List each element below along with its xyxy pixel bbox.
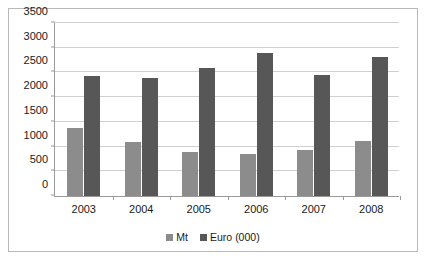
y-axis-tick-label: 1000 <box>24 129 48 141</box>
legend-swatch-icon <box>166 234 173 241</box>
bar <box>297 150 313 196</box>
bar <box>240 154 256 196</box>
gridline <box>55 121 399 122</box>
legend-item[interactable]: Euro (000) <box>200 231 260 243</box>
gridline <box>55 47 399 48</box>
gridline <box>55 96 399 97</box>
y-axis-tick-mark <box>51 46 55 47</box>
legend-item[interactable]: Mt <box>166 231 188 243</box>
plot-area: 0500100015002000250030003500 20032004200… <box>54 23 399 197</box>
y-axis-tick-mark <box>51 170 55 171</box>
y-axis-tick-mark <box>51 96 55 97</box>
x-axis-tick-label: 2005 <box>187 203 211 215</box>
y-axis-tick-label: 1500 <box>24 104 48 116</box>
gridline <box>55 22 399 23</box>
gridline <box>55 170 399 171</box>
gridline <box>55 146 399 147</box>
y-axis-tick-mark <box>51 195 55 196</box>
bar-group <box>125 23 158 196</box>
x-axis-tick-mark <box>228 196 229 200</box>
gridline <box>55 71 399 72</box>
bar <box>84 76 100 196</box>
y-axis-tick-label: 2000 <box>24 79 48 91</box>
x-axis-tick-mark <box>113 196 114 200</box>
y-axis-tick-mark <box>51 145 55 146</box>
y-axis-tick-label: 2500 <box>24 54 48 66</box>
legend-label: Euro (000) <box>210 231 260 243</box>
bar-group <box>67 23 100 196</box>
x-axis-tick-mark <box>170 196 171 200</box>
x-axis-tick-label: 2004 <box>129 203 153 215</box>
x-axis-tick-label: 2008 <box>359 203 383 215</box>
y-axis-tick-mark <box>51 71 55 72</box>
bar <box>142 78 158 196</box>
x-axis-tick-mark <box>343 196 344 200</box>
y-axis-tick-label: 3500 <box>24 5 48 17</box>
bar-group <box>182 23 215 196</box>
bar <box>257 53 273 196</box>
y-axis-tick-label: 500 <box>30 153 48 165</box>
bar <box>314 75 330 196</box>
bar-group <box>240 23 273 196</box>
bar-group <box>297 23 330 196</box>
x-axis-tick-label: 2003 <box>72 203 96 215</box>
legend-swatch-icon <box>200 234 207 241</box>
y-axis-tick-label: 3000 <box>24 30 48 42</box>
chart-legend: MtEuro (000) <box>9 231 417 243</box>
bar <box>182 152 198 196</box>
x-axis-tick-mark <box>285 196 286 200</box>
bar <box>372 57 388 196</box>
y-axis-tick-mark <box>51 22 55 23</box>
plot-wrapper: 0500100015002000250030003500 20032004200… <box>9 9 417 251</box>
x-axis-tick-label: 2006 <box>244 203 268 215</box>
x-axis-tick-label: 2007 <box>302 203 326 215</box>
x-axis-tick-mark <box>400 196 401 200</box>
bar <box>125 142 141 196</box>
bar <box>355 141 371 196</box>
bar <box>67 128 83 196</box>
bar-group <box>355 23 388 196</box>
y-axis-tick-mark <box>51 120 55 121</box>
chart-container: 0500100015002000250030003500 20032004200… <box>8 8 418 252</box>
y-axis-tick-label: 0 <box>42 178 48 190</box>
legend-label: Mt <box>176 231 188 243</box>
bar <box>199 68 215 197</box>
